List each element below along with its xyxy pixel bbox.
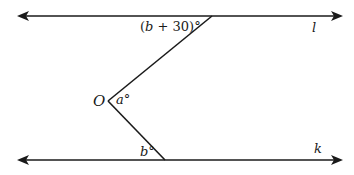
line-l-label: l — [312, 20, 316, 35]
parallel-lines-diagram: (b + 30)° l O a° b° k — [0, 0, 354, 175]
point-o-label: O — [93, 92, 105, 110]
segment-o-to-bottom — [108, 101, 165, 160]
angle-a-label: a° — [116, 92, 130, 107]
angle-top-label: (b + 30)° — [140, 19, 201, 34]
angle-b-label: b° — [140, 144, 155, 159]
line-k-label: k — [314, 141, 322, 156]
